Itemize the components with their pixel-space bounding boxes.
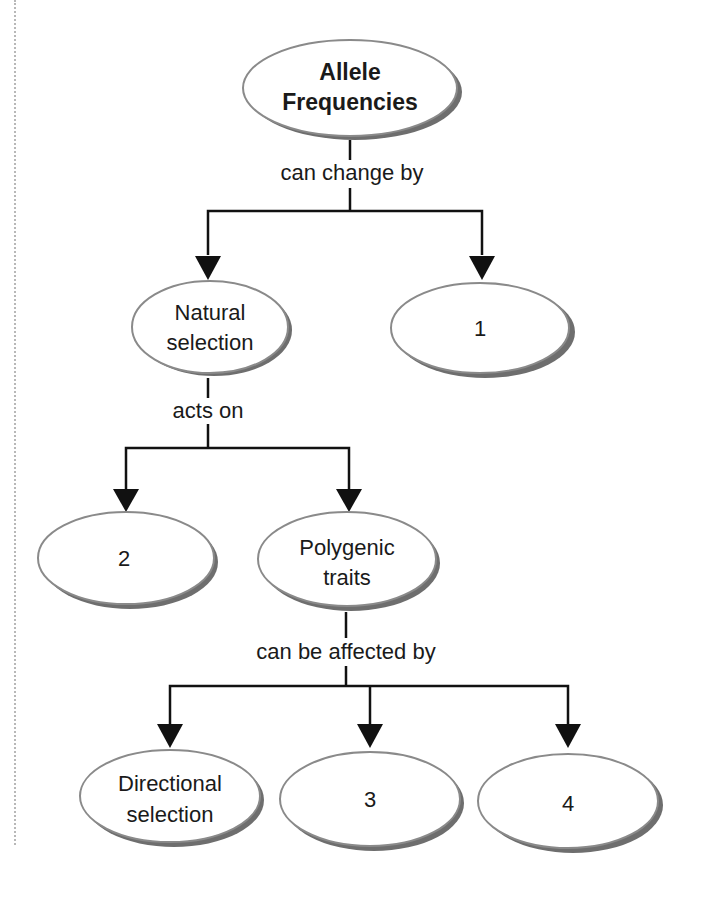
node-text: Natural <box>175 300 246 325</box>
connector-can-be-affected-by <box>170 612 568 726</box>
node-text: selection <box>127 802 214 827</box>
node-blank-2: 2 <box>38 512 218 609</box>
node-directional-selection: Directional selection <box>80 750 264 847</box>
node-natural-selection: Natural selection <box>132 281 292 376</box>
node-text: traits <box>323 565 371 590</box>
node-text: Polygenic <box>299 535 394 560</box>
node-text: 1 <box>474 316 486 341</box>
arrow-head-icon <box>157 724 183 748</box>
node-text: 3 <box>364 787 376 812</box>
arrow-head-icon <box>357 724 383 748</box>
arrow-head-icon <box>336 489 362 512</box>
connector-can-change-by <box>208 140 482 255</box>
node-text: 2 <box>118 546 130 571</box>
concept-map: can change by acts on can be affected by… <box>0 0 702 901</box>
node-text: selection <box>167 330 254 355</box>
node-blank-3: 3 <box>280 752 464 851</box>
node-text: Allele <box>319 59 380 85</box>
arrow-head-icon <box>555 724 581 748</box>
link-label-can-change-by: can change by <box>280 160 423 185</box>
node-text: 4 <box>562 791 574 816</box>
node-blank-4: 4 <box>478 754 663 853</box>
link-label-acts-on: acts on <box>173 398 244 423</box>
node-blank-1: 1 <box>391 283 575 378</box>
arrow-head-icon <box>469 256 495 280</box>
arrow-head-icon <box>195 256 221 280</box>
link-label-can-be-affected-by: can be affected by <box>256 639 435 664</box>
node-text: Directional <box>118 771 222 796</box>
connector-acts-on <box>126 378 349 490</box>
node-polygenic-traits: Polygenic traits <box>258 512 440 611</box>
arrow-head-icon <box>113 489 139 512</box>
node-text: Frequencies <box>282 89 418 115</box>
node-allele-frequencies: Allele Frequencies <box>243 40 462 140</box>
